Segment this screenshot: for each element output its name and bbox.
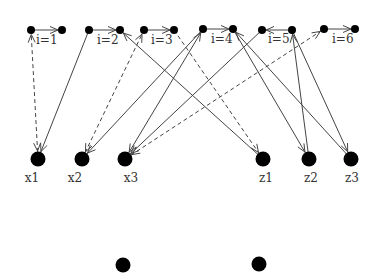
- pair-label: i=6: [332, 32, 354, 46]
- pair-i5: i=5: [258, 26, 296, 46]
- pair-left-node: [140, 26, 148, 34]
- nodes-layer: x1x2x3z1z2z3: [25, 152, 359, 273]
- pair-i1: i=1: [27, 26, 66, 47]
- edge: [233, 29, 309, 159]
- node-circle: [75, 152, 90, 167]
- dashed-edge-line: [31, 30, 38, 159]
- node-z1: z1: [256, 152, 273, 186]
- pair-label: i=4: [211, 32, 233, 46]
- node-circle: [302, 152, 317, 167]
- solid-edge-line: [82, 29, 203, 159]
- top-pairs-layer: i=1i=2i=3i=4i=5i=6: [27, 25, 359, 47]
- pair-label: i=5: [268, 32, 290, 46]
- node-x1: x1: [25, 152, 46, 186]
- node-x3: x3: [118, 152, 139, 186]
- arrowhead-icon: [298, 143, 305, 152]
- node-label: z1: [259, 171, 273, 185]
- pair-label: i=2: [97, 33, 119, 47]
- node-label: z3: [345, 171, 359, 185]
- node-z3: z3: [344, 152, 359, 186]
- pair-label: i=1: [36, 33, 58, 47]
- pair-left-node: [85, 26, 93, 34]
- dashed-edge-line: [174, 30, 263, 159]
- arrowhead-icon: [135, 34, 142, 43]
- dashed-edge-line: [82, 30, 144, 159]
- diagram-canvas: i=1i=2i=3i=4i=5i=6 x1x2x3z1z2z3: [0, 0, 386, 275]
- node-circle: [31, 152, 46, 167]
- edges-layer: [28, 29, 351, 159]
- edge: [82, 29, 203, 159]
- pair-left-node: [199, 25, 207, 33]
- node-b1: [116, 258, 131, 273]
- node-label: x1: [25, 171, 39, 185]
- arrowhead-icon: [194, 33, 201, 42]
- arrowhead-icon: [129, 143, 136, 152]
- edge: [233, 29, 351, 159]
- solid-edge-line: [233, 29, 309, 159]
- node-circle: [344, 152, 359, 167]
- graph-diagram: i=1i=2i=3i=4i=5i=6 x1x2x3z1z2z3: [0, 0, 386, 275]
- pair-i6: i=6: [320, 25, 359, 46]
- pair-left-node: [27, 26, 35, 34]
- arrowhead-icon: [312, 31, 321, 38]
- pair-right-node: [58, 26, 66, 34]
- pair-left-node: [320, 25, 328, 33]
- edge: [28, 30, 40, 159]
- edge: [174, 30, 263, 159]
- node-b2: [252, 257, 267, 272]
- solid-edge-line: [38, 30, 89, 159]
- edge: [38, 30, 89, 159]
- pair-i3: i=3: [140, 26, 178, 47]
- edge: [82, 30, 144, 159]
- node-z2: z2: [302, 152, 318, 186]
- node-x2: x2: [68, 152, 90, 186]
- node-label: x3: [124, 171, 138, 185]
- pair-i4: i=4: [199, 25, 237, 46]
- pair-i2: i=2: [85, 26, 124, 47]
- pair-label: i=3: [151, 33, 173, 47]
- pair-left-node: [258, 26, 266, 34]
- node-label: z2: [304, 171, 318, 185]
- node-circle: [118, 152, 133, 167]
- node-circle: [256, 152, 271, 167]
- node-label: x2: [68, 171, 82, 185]
- solid-edge-line: [233, 29, 351, 159]
